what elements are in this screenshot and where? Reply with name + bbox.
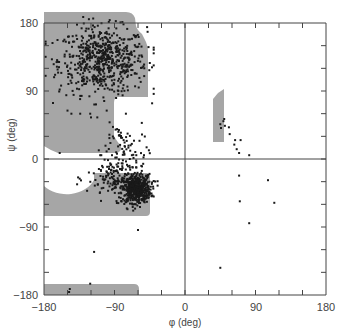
data-point [63, 39, 65, 41]
data-point [103, 63, 105, 65]
data-point [124, 57, 126, 59]
data-point [120, 192, 122, 194]
data-point [113, 91, 115, 93]
data-point [145, 175, 147, 177]
data-point [89, 55, 91, 57]
data-point [132, 181, 134, 183]
data-point [82, 16, 84, 18]
data-point [123, 48, 125, 50]
data-point [107, 174, 109, 176]
data-point [69, 54, 71, 56]
data-point [153, 47, 155, 49]
data-point [109, 177, 111, 179]
data-point [122, 180, 124, 182]
data-point [81, 77, 83, 79]
data-point [133, 34, 135, 36]
data-point [87, 69, 89, 71]
data-point [73, 94, 75, 96]
data-point [79, 113, 81, 115]
data-point [135, 160, 137, 162]
data-point [132, 199, 134, 201]
data-point [45, 41, 47, 43]
data-point [141, 191, 143, 193]
data-point [143, 154, 145, 156]
data-point [77, 72, 79, 74]
data-point [132, 210, 134, 212]
data-point [108, 33, 110, 35]
data-point [126, 53, 128, 55]
data-point [75, 35, 77, 37]
data-point [125, 71, 127, 73]
data-point [82, 72, 84, 74]
data-point [120, 132, 122, 134]
data-point [121, 148, 123, 150]
data-point [83, 83, 85, 85]
data-point [134, 183, 136, 185]
data-point [238, 175, 240, 177]
data-point [233, 144, 235, 146]
data-point [90, 43, 92, 45]
data-point [122, 87, 124, 89]
data-point [139, 199, 141, 201]
data-point [91, 68, 93, 70]
data-point [60, 85, 62, 87]
data-point [81, 40, 83, 42]
data-point [99, 154, 101, 156]
data-point [99, 191, 101, 193]
data-point [104, 47, 106, 49]
data-point [113, 181, 115, 183]
data-point [113, 82, 115, 84]
data-point [56, 59, 58, 61]
data-point [51, 58, 53, 60]
data-point [127, 200, 129, 202]
data-point [143, 75, 145, 77]
data-point [112, 136, 114, 138]
data-point [119, 53, 121, 55]
data-point [57, 39, 59, 41]
data-point [90, 116, 92, 118]
data-point [69, 288, 71, 290]
data-point [105, 37, 107, 39]
data-point [150, 189, 152, 191]
data-point [58, 91, 60, 93]
data-point [98, 168, 100, 170]
data-point [129, 185, 131, 187]
data-point [127, 172, 129, 174]
data-point [76, 55, 78, 57]
data-point [109, 89, 111, 91]
data-point [80, 53, 82, 55]
data-point [144, 136, 146, 138]
data-point [104, 51, 106, 53]
data-point [219, 123, 221, 125]
data-point [157, 185, 159, 187]
data-point [152, 186, 154, 188]
data-point [229, 133, 231, 135]
data-point [107, 182, 109, 184]
data-point [117, 145, 119, 147]
data-point [111, 79, 113, 81]
data-point [109, 41, 111, 43]
data-point [69, 68, 71, 70]
data-point [57, 72, 59, 74]
data-point [89, 79, 91, 81]
data-point [134, 56, 136, 58]
data-point [135, 36, 137, 38]
data-point [79, 61, 81, 63]
data-point [136, 189, 138, 191]
data-point [116, 166, 118, 168]
data-point [127, 70, 129, 72]
data-point [153, 88, 155, 90]
data-point [95, 76, 97, 78]
data-point [86, 67, 88, 69]
data-point [104, 54, 106, 56]
data-point [117, 177, 119, 179]
data-point [149, 62, 151, 64]
data-point [122, 53, 124, 55]
data-point [57, 69, 59, 71]
data-point [59, 152, 61, 154]
data-point [99, 77, 101, 79]
data-point [106, 64, 108, 66]
data-point [98, 149, 100, 151]
data-point [141, 134, 143, 136]
data-point [109, 142, 111, 144]
